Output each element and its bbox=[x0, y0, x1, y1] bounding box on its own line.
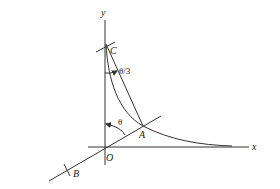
point-b-label: B bbox=[73, 168, 79, 179]
y-axis-label: y bbox=[100, 7, 106, 18]
angle-theta-label: θ bbox=[118, 117, 122, 127]
tick-b bbox=[64, 164, 70, 176]
line-ca bbox=[106, 44, 143, 126]
curve bbox=[106, 44, 232, 146]
angle-theta-third-label: θ/3 bbox=[119, 66, 131, 76]
x-axis-label: x bbox=[251, 141, 257, 152]
point-c-label: C bbox=[110, 45, 117, 56]
angle-arc-theta-third bbox=[105, 71, 117, 73]
geometry-diagram: y x O A B C θ/3 θ bbox=[0, 0, 280, 189]
point-a-label: A bbox=[138, 129, 146, 140]
origin-label: O bbox=[106, 152, 113, 163]
